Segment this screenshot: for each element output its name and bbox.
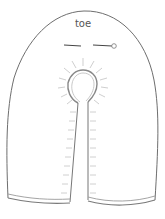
slit-left-edge [70, 103, 78, 202]
pattern-outline [7, 11, 158, 200]
pattern-diagram: toe [0, 0, 165, 219]
hem-left-inner [8, 194, 70, 199]
keyhole-opening [68, 70, 97, 103]
slit-stitches [61, 112, 96, 193]
grainline-end-icon [112, 44, 117, 49]
grainline-left [64, 45, 81, 46]
radiating-stitches [58, 58, 108, 104]
pattern-piece-svg [0, 0, 165, 219]
keyhole-inner [72, 73, 94, 102]
grainline-right [93, 45, 112, 46]
hem-right-inner [88, 196, 155, 201]
toe-label: toe [70, 18, 96, 30]
